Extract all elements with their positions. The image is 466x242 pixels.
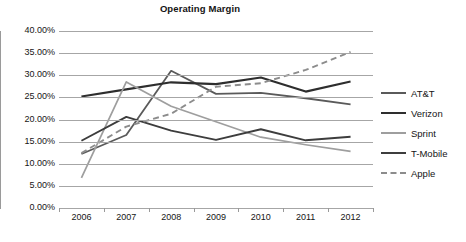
y-axis-tick-label: 25.00%: [3, 91, 55, 101]
x-axis-tick-mark: [149, 208, 150, 212]
legend-item-apple[interactable]: Apple: [381, 163, 466, 183]
operating-margin-chart: Operating Margin 0.00%5.00%10.00%15.00%2…: [0, 0, 466, 242]
y-axis-tick-label: 40.00%: [3, 25, 55, 35]
x-axis-tick-mark: [283, 208, 284, 212]
x-axis-tick-mark: [238, 208, 239, 212]
legend-item-verizon[interactable]: Verizon: [381, 103, 466, 123]
x-axis-tick-mark: [194, 208, 195, 212]
x-axis-tick-mark: [59, 208, 60, 212]
x-axis-tick-mark: [104, 208, 105, 212]
x-axis-tick-label: 2006: [61, 212, 101, 222]
legend-swatch-t-mobile: [381, 148, 406, 159]
gridline: [59, 164, 373, 165]
plot-area: [59, 31, 373, 208]
y-axis-line: [0, 31, 1, 209]
x-axis-tick-label: 2012: [331, 212, 371, 222]
legend-item-sprint[interactable]: Sprint: [381, 123, 466, 143]
y-axis: 0.00%5.00%10.00%15.00%20.00%25.00%30.00%…: [0, 0, 55, 242]
x-axis: 2006200720082009201020112012: [59, 212, 373, 228]
gridline: [59, 97, 373, 98]
legend-label-verizon: Verizon: [411, 108, 443, 119]
legend-swatch-apple: [381, 168, 406, 179]
x-axis-tick-label: 2007: [106, 212, 146, 222]
gridline: [59, 31, 373, 32]
y-axis-tick-label: 15.00%: [3, 136, 55, 146]
chart-legend: AT&TVerizonSprintT-MobileApple: [381, 83, 466, 183]
gridline: [59, 120, 373, 121]
x-axis-tick-label: 2011: [286, 212, 326, 222]
legend-swatch-verizon: [381, 108, 406, 119]
legend-label-at-t: AT&T: [411, 88, 435, 99]
x-axis-tick-label: 2008: [151, 212, 191, 222]
legend-label-t-mobile: T-Mobile: [411, 148, 447, 159]
gridline: [59, 142, 373, 143]
legend-item-at-t[interactable]: AT&T: [381, 83, 466, 103]
legend-item-t-mobile[interactable]: T-Mobile: [381, 143, 466, 163]
gridline: [59, 208, 373, 209]
x-axis-tick-mark: [373, 208, 374, 212]
x-axis-tick-label: 2009: [196, 212, 236, 222]
x-axis-tick-label: 2010: [241, 212, 281, 222]
gridline: [59, 53, 373, 54]
legend-swatch-sprint: [381, 128, 406, 139]
chart-title: Operating Margin: [0, 3, 400, 14]
gridline: [59, 75, 373, 76]
series-line-apple: [81, 52, 350, 153]
y-axis-tick-label: 10.00%: [3, 158, 55, 168]
legend-label-apple: Apple: [411, 168, 435, 179]
y-axis-tick-label: 0.00%: [3, 202, 55, 212]
legend-swatch-at-t: [381, 88, 406, 99]
gridline: [59, 186, 373, 187]
y-axis-tick-label: 35.00%: [3, 47, 55, 57]
x-axis-tick-mark: [328, 208, 329, 212]
y-axis-tick-label: 20.00%: [3, 114, 55, 124]
legend-label-sprint: Sprint: [411, 128, 436, 139]
y-axis-tick-label: 5.00%: [3, 180, 55, 190]
y-axis-tick-label: 30.00%: [3, 69, 55, 79]
